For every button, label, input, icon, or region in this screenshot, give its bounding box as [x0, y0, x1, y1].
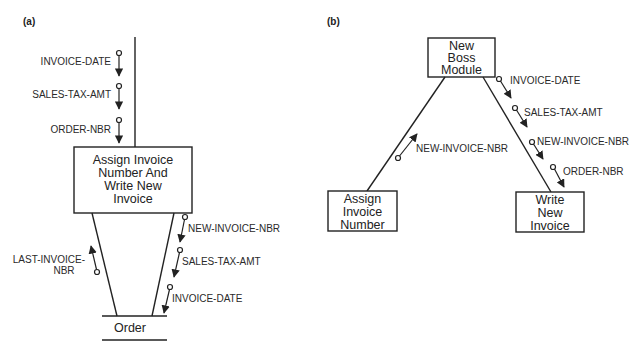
call-line-to-write	[483, 77, 551, 192]
data-couple-icon	[497, 77, 502, 82]
couple-label: ORDER-NBR	[50, 124, 111, 135]
data-couple-icon	[95, 270, 100, 275]
data-couple-icon	[183, 215, 188, 220]
module-assign-invoice-number: Assign Invoice Number	[328, 191, 397, 232]
couple-invoice-date-b: INVOICE-DATE	[497, 75, 581, 98]
data-couple-icon	[178, 248, 183, 253]
couple-label: INVOICE-DATE	[510, 75, 581, 86]
module-line: Number And	[98, 166, 168, 180]
couple-new-invoice-nbr-b: NEW-INVOICE-NBR	[530, 136, 630, 159]
module-line: Module	[441, 63, 482, 77]
panel-a: (a) INVOICE-DATE SALES-TAX-AMT ORDER-NBR…	[13, 16, 280, 340]
data-couple-icon	[530, 140, 535, 145]
module-line: Invoice	[343, 205, 383, 219]
structure-chart-diagram: (a) INVOICE-DATE SALES-TAX-AMT ORDER-NBR…	[0, 0, 644, 355]
module-line: Assign Invoice	[93, 153, 174, 167]
couple-label: ORDER-NBR	[563, 166, 624, 177]
couple-label: NEW-INVOICE-NBR	[416, 143, 508, 154]
data-couple-icon	[117, 84, 122, 89]
couple-label: INVOICE-DATE	[41, 56, 112, 67]
couple-label: SALES-TAX-AMT	[524, 107, 603, 118]
data-couple-icon	[168, 285, 173, 290]
panel-b-label: (b)	[327, 16, 340, 27]
module-line: Write	[536, 193, 565, 207]
couple-invoice-date-in: INVOICE-DATE	[41, 51, 122, 77]
module-assign-and-write-invoice: Assign Invoice Number And Write New Invo…	[74, 147, 192, 213]
couple-label: INVOICE-DATE	[172, 293, 243, 304]
couple-order-nbr-in: ORDER-NBR	[50, 118, 121, 144]
module-line: Invoice	[530, 219, 570, 233]
module-line: Assign	[344, 192, 382, 206]
arrow-down-icon	[180, 220, 185, 243]
arrow-up-icon	[91, 246, 97, 270]
module-line: Number	[340, 218, 384, 232]
panel-a-label: (a)	[23, 16, 35, 27]
module-line: Invoice	[113, 192, 153, 206]
module-new-boss: New Boss Module	[428, 38, 495, 77]
data-couple-icon	[551, 165, 556, 170]
arrow-down-icon	[164, 290, 170, 314]
module-line: Write New	[104, 179, 162, 193]
panel-b: (b) New Boss Module NEW-INVOICE-NBR INVO…	[327, 16, 629, 233]
couple-order-nbr-b: ORDER-NBR	[551, 165, 624, 188]
module-write-new-invoice: Write New Invoice	[516, 192, 584, 233]
call-line-to-assign	[367, 77, 445, 191]
couple-sales-tax-amt-b: SALES-TAX-AMT	[513, 106, 603, 128]
couple-label: SALES-TAX-AMT	[182, 256, 261, 267]
couple-label: NEW-INVOICE-NBR	[537, 136, 629, 147]
couple-sales-tax-amt-in: SALES-TAX-AMT	[32, 84, 121, 110]
couple-label: NBR	[53, 265, 74, 276]
couple-invoice-date-out: INVOICE-DATE	[164, 285, 243, 314]
write-access-line	[152, 213, 174, 316]
data-couple-icon	[117, 51, 122, 56]
arrow-up-icon	[400, 134, 418, 156]
couple-last-invoice-nbr: LAST-INVOICE- NBR	[13, 246, 100, 276]
data-couple-icon	[117, 118, 122, 123]
couple-label: SALES-TAX-AMT	[32, 89, 111, 100]
couple-label: NEW-INVOICE-NBR	[188, 223, 280, 234]
store-label: Order	[114, 321, 146, 335]
arrow-down-icon	[174, 253, 180, 278]
couple-label: LAST-INVOICE-	[13, 254, 85, 265]
couple-new-invoice-nbr-return: NEW-INVOICE-NBR	[396, 134, 509, 161]
couple-sales-tax-amt-out: SALES-TAX-AMT	[174, 248, 261, 278]
data-couple-icon	[396, 156, 401, 161]
couple-new-invoice-nbr-out: NEW-INVOICE-NBR	[180, 215, 280, 243]
module-line: New	[537, 206, 563, 220]
data-couple-icon	[513, 106, 518, 111]
data-store-order: Order	[102, 316, 167, 340]
